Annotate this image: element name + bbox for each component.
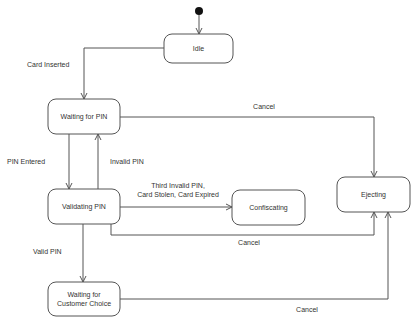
transition-label: Card Stolen, Card Expired — [137, 191, 219, 199]
state-box — [48, 282, 120, 316]
state-confiscating: Confiscating — [232, 190, 305, 225]
state-label: Idle — [193, 45, 204, 52]
initial-state-dot — [195, 7, 203, 15]
transition-t-cancel-3: Cancel — [120, 212, 391, 313]
transition-line — [120, 117, 374, 177]
transition-label: Invalid PIN — [110, 158, 144, 165]
transition-t-valid-pin: Valid PIN — [33, 224, 86, 282]
transition-label: Card Inserted — [27, 61, 70, 68]
transition-t-pin-entered: PIN Entered — [7, 134, 72, 189]
transition-label: PIN Entered — [7, 158, 45, 165]
transition-t-cancel-1: Cancel — [120, 103, 377, 177]
state-ejecting: Ejecting — [337, 177, 410, 212]
state-diagram: Card InsertedPIN EnteredInvalid PINThird… — [0, 0, 417, 324]
state-label: Ejecting — [361, 191, 386, 199]
transition-line — [84, 48, 164, 99]
state-label: Validating PIN — [62, 203, 106, 211]
transition-label: Cancel — [296, 306, 318, 313]
transition-t-card-inserted: Card Inserted — [27, 48, 164, 99]
transition-label: Cancel — [238, 239, 260, 246]
transition-t-invalid-pin: Invalid PIN — [95, 134, 144, 189]
transition-label: Cancel — [253, 103, 275, 110]
state-label: Customer Choice — [57, 300, 111, 307]
state-label: Waiting for PIN — [61, 113, 108, 121]
state-label: Waiting for — [67, 291, 101, 299]
state-waiting-pin: Waiting for PIN — [48, 99, 120, 134]
state-validating: Validating PIN — [48, 189, 120, 224]
transition-label: Valid PIN — [33, 248, 62, 255]
state-idle: Idle — [164, 34, 233, 63]
state-customer-choice: Waiting forCustomer Choice — [48, 282, 120, 316]
transition-t-confiscate: Third Invalid PIN,Card Stolen, Card Expi… — [120, 182, 232, 210]
transition-label: Third Invalid PIN, — [151, 182, 205, 189]
state-label: Confiscating — [249, 204, 288, 212]
